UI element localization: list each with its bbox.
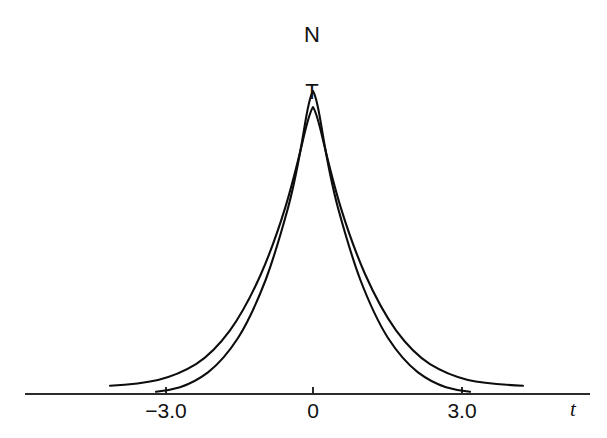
t-distribution-curve [110, 107, 523, 386]
normal-curve-label: N [304, 22, 320, 47]
x-axis-title: t [570, 397, 577, 421]
chart-canvas: −3.0 0 3.0 t N T [0, 0, 607, 438]
distribution-comparison-figure: −3.0 0 3.0 t N T [0, 0, 607, 438]
x-tick-label-plus-3: 3.0 [447, 399, 476, 422]
x-tick-label-minus-3: −3.0 [145, 399, 186, 422]
x-tick-label-zero: 0 [307, 399, 319, 422]
normal-distribution-curve [156, 91, 470, 392]
t-curve-label: T [305, 79, 318, 104]
